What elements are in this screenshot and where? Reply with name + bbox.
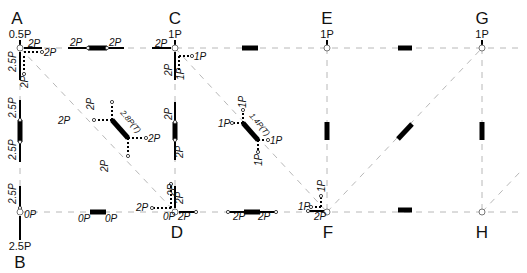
joint-H	[479, 209, 485, 215]
force-label: 2P	[163, 63, 174, 77]
force-label: 2P	[99, 159, 110, 173]
force-label: 2P	[154, 38, 168, 49]
force-label: 2P	[232, 211, 246, 222]
force-label: 2P	[27, 38, 41, 49]
force-label: 2P	[57, 115, 71, 126]
force-label: 2P	[174, 145, 185, 159]
joint-E	[324, 45, 330, 51]
label-A: A	[11, 9, 23, 28]
member-bars	[20, 48, 482, 212]
force-label: 2.5P	[7, 139, 18, 161]
joint-C	[172, 45, 178, 51]
force-label: 2.5P	[7, 97, 18, 119]
joint-G	[479, 45, 485, 51]
label-H: H	[476, 223, 488, 242]
force-label: 2P	[313, 211, 327, 222]
label-B: B	[14, 253, 25, 272]
force-label: 2P	[85, 97, 96, 111]
label-F: F	[323, 223, 333, 242]
force-label: 0P	[24, 209, 37, 220]
load-G: 1P	[475, 28, 488, 40]
force-label: 2P	[163, 107, 174, 121]
force-label: 2P	[19, 75, 30, 89]
force-label: 0P	[163, 211, 176, 222]
force-label: 2.5P	[7, 51, 18, 73]
joint-A	[17, 45, 23, 51]
force-label: 0P	[78, 213, 91, 224]
force-label: 2P	[177, 211, 191, 222]
label-G: G	[475, 9, 488, 28]
force-label: 1P	[194, 51, 207, 62]
force-label: 1P	[218, 118, 231, 129]
force-label: 2P	[257, 211, 271, 222]
force-label: 2P	[43, 47, 57, 58]
member-FG	[398, 124, 412, 139]
force-label: 2P	[174, 191, 185, 205]
force-label: 1P	[298, 201, 311, 212]
force-label: 2P	[69, 37, 83, 48]
force-label: 2P	[147, 133, 161, 144]
force-label: 2P	[108, 37, 122, 48]
label-D: D	[171, 223, 183, 242]
reaction-B: 2.5P	[9, 240, 32, 252]
force-label: 0P	[105, 213, 118, 224]
load-C: 1P	[168, 28, 181, 40]
force-label: 1P	[237, 95, 248, 108]
force-label: 1P	[253, 153, 264, 166]
force-label: 1P	[175, 67, 186, 80]
truss-diagram: A 0.5P C 1P E 1P G 1P 2.5P B D F H 2P 2P…	[0, 0, 527, 273]
force-label: 2P	[135, 202, 149, 213]
load-E: 1P	[320, 28, 333, 40]
force-label: 1P	[316, 179, 327, 192]
joint-B	[17, 209, 23, 215]
force-label: 2.5P	[7, 183, 18, 205]
label-C: C	[169, 9, 181, 28]
force-labels: 2P 2P 2.5P 2P 2P 2P 2.5P 2.5P 2.5P 0P 0P…	[7, 37, 327, 224]
force-label: 1P	[270, 135, 283, 146]
label-E: E	[321, 9, 332, 28]
